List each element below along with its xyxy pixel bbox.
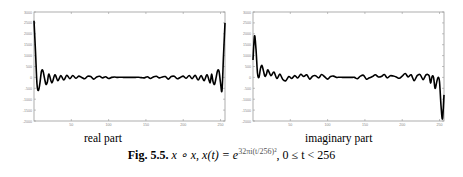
caption-text: x ∘ x, x(t) = e xyxy=(171,148,238,162)
svg-text:500: 500 xyxy=(245,65,251,69)
svg-text:50: 50 xyxy=(288,123,292,127)
caption-exponent: 32πi(t/256)² xyxy=(238,147,276,156)
svg-text:2000: 2000 xyxy=(243,32,251,36)
svg-text:2500: 2500 xyxy=(243,21,251,25)
svg-text:-500: -500 xyxy=(25,87,32,91)
plot-imaginary-part: 300025002000150010005000-500-1000-1500-2… xyxy=(219,0,449,128)
svg-text:200: 200 xyxy=(180,123,186,127)
svg-text:3000: 3000 xyxy=(243,11,251,15)
svg-text:200: 200 xyxy=(399,123,405,127)
chart-real: 300025002000150010005000-500-1000-1500-2… xyxy=(0,0,230,128)
svg-text:-2000: -2000 xyxy=(23,120,32,124)
svg-text:1500: 1500 xyxy=(243,43,251,47)
svg-text:1000: 1000 xyxy=(24,54,32,58)
svg-text:3000: 3000 xyxy=(24,11,32,15)
svg-text:100: 100 xyxy=(106,123,112,127)
svg-text:1000: 1000 xyxy=(243,54,251,58)
svg-text:-1000: -1000 xyxy=(242,98,251,102)
svg-text:150: 150 xyxy=(143,123,149,127)
svg-text:250: 250 xyxy=(437,123,443,127)
svg-text:150: 150 xyxy=(362,123,368,127)
subcaption-real: real part xyxy=(84,132,122,144)
chart-imag: 300025002000150010005000-500-1000-1500-2… xyxy=(219,0,459,128)
svg-text:2000: 2000 xyxy=(24,32,32,36)
svg-text:-1000: -1000 xyxy=(23,98,32,102)
svg-text:1500: 1500 xyxy=(24,43,32,47)
svg-text:-1500: -1500 xyxy=(23,109,32,113)
svg-text:-2000: -2000 xyxy=(242,120,251,124)
svg-text:-500: -500 xyxy=(244,87,251,91)
svg-text:100: 100 xyxy=(325,123,331,127)
plot-real-part: 300025002000150010005000-500-1000-1500-2… xyxy=(0,0,230,128)
svg-text:0: 0 xyxy=(30,76,32,80)
subcaption-imaginary: imaginary part xyxy=(305,132,372,144)
svg-text:-1500: -1500 xyxy=(242,109,251,113)
svg-text:50: 50 xyxy=(69,123,73,127)
figure-caption: Fig. 5.5. x ∘ x, x(t) = e32πi(t/256)², 0… xyxy=(0,147,463,163)
svg-text:2500: 2500 xyxy=(24,21,32,25)
caption-tail: , 0 ≤ t < 256 xyxy=(277,148,336,162)
svg-text:500: 500 xyxy=(26,65,32,69)
caption-label: Fig. 5.5. xyxy=(128,148,169,162)
svg-text:0: 0 xyxy=(249,76,251,80)
